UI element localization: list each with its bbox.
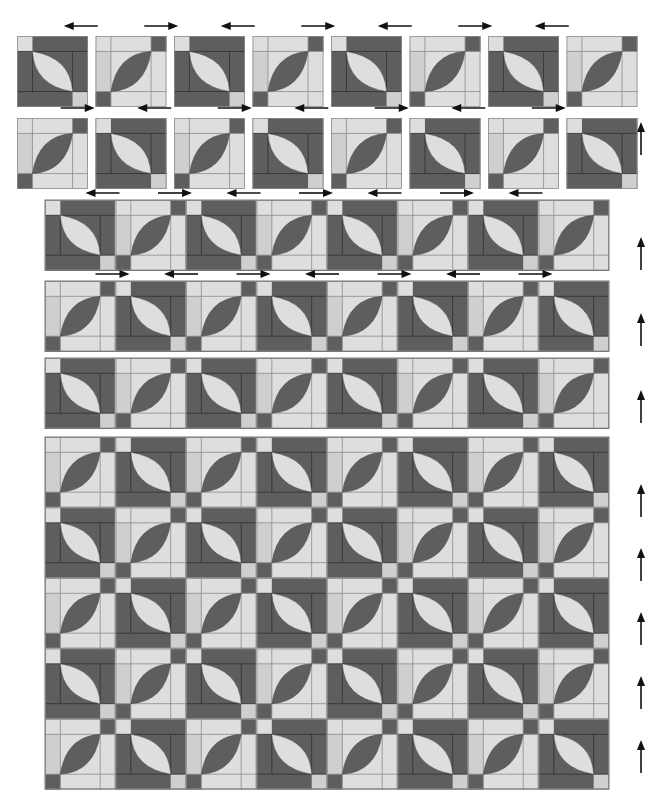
block-1-6 (410, 36, 481, 107)
sewn-row-2 (45, 270, 645, 352)
corner-square (116, 578, 131, 593)
corner-square (382, 437, 397, 452)
quilt-block-1-5 (327, 437, 398, 508)
quilt-block-1-6 (398, 437, 469, 508)
corner-square (100, 719, 115, 734)
arrow-right-icon (96, 270, 130, 278)
corner-square (539, 578, 554, 593)
quilt-block-1-8 (539, 437, 610, 508)
corner-square (312, 336, 327, 351)
corner-square (17, 36, 32, 51)
corner-square (116, 704, 131, 719)
corner-square (312, 633, 327, 648)
block-row-2 (17, 104, 645, 189)
arrow-left-icon (227, 189, 261, 197)
corner-square (539, 255, 554, 270)
row-block-1-5 (327, 200, 398, 271)
corner-square (622, 36, 637, 51)
corner-square (45, 774, 60, 789)
quilt-block-1-4 (257, 437, 328, 508)
quilt-block-5-6 (398, 719, 469, 790)
corner-square (171, 492, 186, 507)
corner-square (398, 578, 413, 593)
corner-square (327, 200, 342, 215)
corner-square (398, 437, 413, 452)
corner-square (241, 413, 256, 428)
corner-square (382, 704, 397, 719)
arrow-right-icon (440, 189, 474, 197)
corner-square (453, 633, 468, 648)
corner-square (116, 563, 131, 578)
quilt-block-3-4 (257, 578, 328, 649)
arrow-right-icon (299, 189, 333, 197)
arrow-left-icon (535, 22, 569, 30)
corner-square (382, 563, 397, 578)
sewn-row-1 (45, 189, 645, 271)
arrow-up-icon (637, 740, 645, 773)
arrow-left-icon (221, 22, 255, 30)
quilt-block-1-3 (186, 437, 257, 508)
corner-square (116, 719, 131, 734)
corner-square (544, 118, 559, 133)
corner-square (241, 578, 256, 593)
corner-square (45, 336, 60, 351)
quilt-block-2-1 (45, 508, 116, 579)
corner-square (116, 413, 131, 428)
corner-square (100, 281, 115, 296)
row-block-2-6 (398, 281, 469, 352)
block-1-3 (174, 36, 245, 107)
corner-square (594, 633, 609, 648)
quilt-block-2-5 (327, 508, 398, 579)
arrow-up-icon (637, 390, 645, 423)
corner-square (398, 413, 413, 428)
quilt-block-5-7 (468, 719, 539, 790)
corner-square (382, 578, 397, 593)
corner-square (488, 174, 503, 189)
row-block-1-4 (257, 200, 328, 271)
corner-square (523, 281, 538, 296)
corner-square (257, 719, 272, 734)
corner-square (100, 413, 115, 428)
corner-square (382, 719, 397, 734)
corner-square (398, 704, 413, 719)
corner-square (116, 437, 131, 452)
corner-square (308, 36, 323, 51)
block-1-5 (331, 36, 402, 107)
step3-assembled-quilt (45, 437, 645, 790)
corner-square (382, 413, 397, 428)
corner-square (594, 200, 609, 215)
corner-square (17, 174, 32, 189)
arrow-up-icon (637, 548, 645, 581)
corner-square (174, 36, 189, 51)
corner-square (453, 649, 468, 664)
corner-square (327, 774, 342, 789)
row-block-3-1 (45, 358, 116, 429)
corner-square (100, 255, 115, 270)
corner-square (241, 255, 256, 270)
corner-square (312, 492, 327, 507)
row-block-1-1 (45, 200, 116, 271)
corner-square (539, 281, 554, 296)
row-block-1-2 (116, 200, 187, 271)
corner-square (523, 719, 538, 734)
quilt-block-3-1 (45, 578, 116, 649)
corner-square (523, 437, 538, 452)
corner-square (186, 200, 201, 215)
row-block-2-8 (539, 281, 610, 352)
quilt-block-4-2 (116, 649, 187, 720)
corner-square (622, 174, 637, 189)
corner-square (523, 578, 538, 593)
corner-square (327, 649, 342, 664)
block-1-7 (488, 36, 559, 107)
corner-square (174, 174, 189, 189)
corner-square (312, 774, 327, 789)
corner-square (253, 92, 268, 107)
quilt-block-2-7 (468, 508, 539, 579)
corner-square (398, 719, 413, 734)
corner-square (171, 200, 186, 215)
arrow-up-icon (637, 237, 645, 270)
corner-square (151, 174, 166, 189)
arrow-left-icon (509, 189, 543, 197)
corner-square (45, 508, 60, 523)
quilt-block-2-4 (257, 508, 328, 579)
